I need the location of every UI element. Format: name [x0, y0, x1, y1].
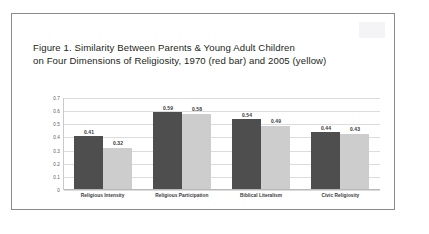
bar-fill — [182, 114, 211, 190]
bar-value-label: 0.58 — [192, 106, 202, 112]
bar[interactable]: 0.49 — [261, 126, 290, 190]
y-axis-tick-label: 0.3 — [40, 148, 60, 153]
bar-group: 0.540.49 — [228, 98, 294, 190]
x-axis: Religious IntensityReligious Participati… — [63, 193, 380, 204]
y-axis: 0.70.60.50.40.30.20.10 — [40, 98, 60, 190]
bar-value-label: 0.49 — [271, 118, 281, 124]
figure-frame: Figure 1. Similarity Between Parents & Y… — [11, 13, 395, 210]
bar[interactable]: 0.32 — [103, 148, 132, 190]
y-axis-tick-label: 0 — [40, 188, 60, 193]
gridline — [64, 190, 380, 191]
bar-group: 0.590.58 — [149, 98, 215, 190]
bar-group: 0.440.43 — [307, 98, 373, 190]
y-axis-tick-label: 0.6 — [40, 109, 60, 114]
y-axis-tick-label: 0.7 — [40, 96, 60, 101]
plot-area: 0.410.320.590.580.540.490.440.43 — [63, 98, 380, 190]
x-axis-tick-label: Civic Religiosity — [307, 193, 374, 204]
bar-fill — [232, 119, 261, 190]
bar-value-label: 0.43 — [350, 126, 360, 132]
bar[interactable]: 0.41 — [74, 136, 103, 190]
bar-fill — [153, 112, 182, 190]
bar-fill — [103, 148, 132, 190]
y-axis-tick-label: 0.5 — [40, 122, 60, 127]
x-axis-tick-label: Religious Intensity — [69, 193, 136, 204]
x-axis-tick-label: Biblical Literalism — [228, 193, 295, 204]
bar-value-label: 0.44 — [321, 125, 331, 131]
bar-chart: 0.70.60.50.40.30.20.10 0.410.320.590.580… — [40, 86, 384, 204]
bar-value-label: 0.59 — [163, 105, 173, 111]
plot-wrapper: 0.70.60.50.40.30.20.10 0.410.320.590.580… — [40, 86, 384, 204]
x-axis-tick-label: Religious Participation — [149, 193, 216, 204]
bar-fill — [311, 132, 340, 190]
y-axis-tick-label: 0.2 — [40, 161, 60, 166]
bar-group: 0.410.32 — [70, 98, 136, 190]
bar-groups: 0.410.320.590.580.540.490.440.43 — [64, 98, 380, 190]
y-axis-tick-label: 0.1 — [40, 174, 60, 179]
bar[interactable]: 0.58 — [182, 114, 211, 190]
watermark-icon — [359, 22, 385, 38]
bar-value-label: 0.54 — [242, 112, 252, 118]
bar[interactable]: 0.43 — [340, 134, 369, 191]
bar-value-label: 0.41 — [84, 129, 94, 135]
bar[interactable]: 0.54 — [232, 119, 261, 190]
bar[interactable]: 0.59 — [153, 112, 182, 190]
y-axis-tick-label: 0.4 — [40, 135, 60, 140]
bar-fill — [340, 134, 369, 191]
bar-fill — [261, 126, 290, 190]
figure-title: Figure 1. Similarity Between Parents & Y… — [33, 41, 363, 67]
bar-value-label: 0.32 — [113, 140, 123, 146]
bar-fill — [74, 136, 103, 190]
bar[interactable]: 0.44 — [311, 132, 340, 190]
x-axis-line — [64, 189, 380, 190]
